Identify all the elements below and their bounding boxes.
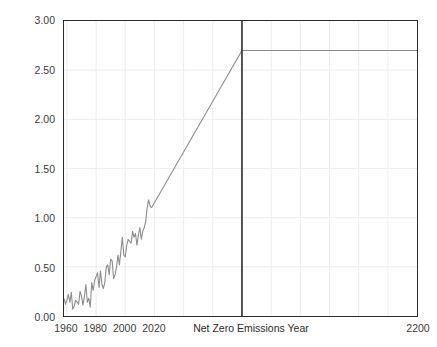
net-zero-emissions-year-label: Net Zero Emissions Year — [193, 322, 309, 334]
series-projected-ramp — [152, 51, 242, 208]
x-tick-label: 1960 — [54, 322, 77, 334]
y-tick-label: 1.50 — [11, 163, 55, 175]
x-tick-label: 2200 — [406, 322, 429, 334]
x-tick-label: 2020 — [142, 322, 165, 334]
climate-temperature-chart: Temperature rise, in °C 0.000.501.001.50… — [0, 0, 437, 347]
series-historical-observed — [64, 200, 152, 309]
y-tick-label: 0.50 — [11, 262, 55, 274]
x-tick-label: 2000 — [113, 322, 136, 334]
data-lines — [64, 21, 417, 316]
x-tick-label: 1980 — [84, 322, 107, 334]
y-tick-label: 3.00 — [11, 14, 55, 26]
y-tick-label: 0.00 — [11, 311, 55, 323]
y-tick-label: 2.50 — [11, 64, 55, 76]
y-tick-label: 1.00 — [11, 212, 55, 224]
y-tick-label: 2.00 — [11, 113, 55, 125]
plot-area — [63, 20, 418, 317]
